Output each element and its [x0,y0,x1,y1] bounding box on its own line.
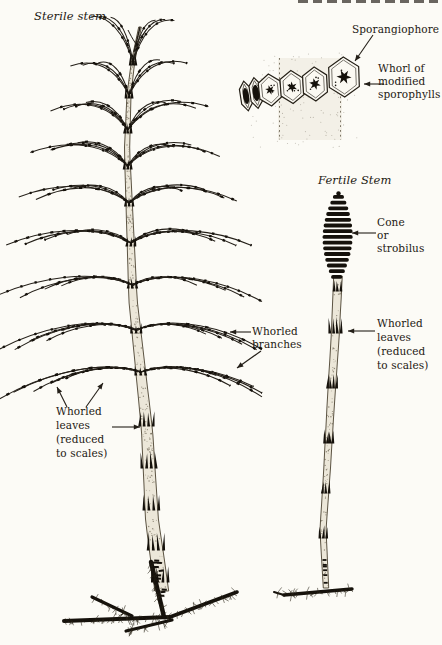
sporangiophore-inset-drawing [238,53,359,148]
book-page: Sterile stem Sporangiophore Whorl of mod… [0,0,442,645]
clipped-page-header-fragment [298,0,440,3]
sterile-stem-title: Sterile stem [34,10,106,23]
fertile-whorled-leaves-label: Whorled leaves (reduced to scales) [377,316,428,372]
whorl-of-modified-sporophylls-label: Whorl of modified sporophylls [378,62,440,101]
whorled-branches-label: Whorled branches [252,325,302,351]
fertile-stem-drawing [274,191,353,601]
sterile-stem-drawing [0,16,262,636]
horsetail-figure-illustration [0,0,442,645]
fertile-stem-title: Fertile Stem [318,174,392,187]
cone-or-strobilus-label: Cone or strobilus [377,216,424,255]
sterile-whorled-leaves-label: Whorled leaves (reduced to scales) [56,404,107,460]
sporangiophore-label: Sporangiophore [352,23,439,36]
